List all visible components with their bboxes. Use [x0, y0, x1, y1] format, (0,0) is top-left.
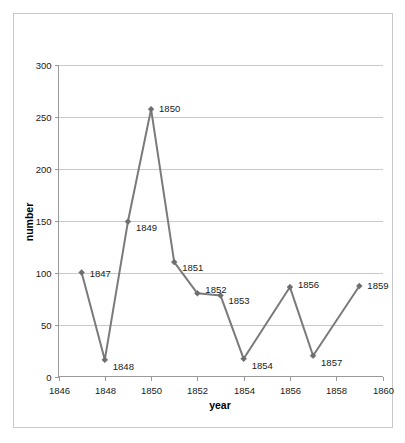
- y-axis-title: number: [23, 203, 35, 242]
- data-point-label: 1854: [252, 360, 273, 371]
- y-tick-label: 150: [36, 216, 52, 227]
- y-tick-label: 250: [36, 112, 52, 123]
- data-point-markers: [79, 106, 363, 362]
- series-polyline: [82, 109, 360, 360]
- x-tick-label: 1848: [95, 385, 116, 396]
- x-tick-label: 1852: [187, 385, 208, 396]
- x-tick-label: 1850: [141, 385, 162, 396]
- y-axis-tick-labels: 050100150200250300: [36, 60, 52, 383]
- data-point-label: 1849: [136, 222, 157, 233]
- x-axis-title: year: [209, 399, 231, 411]
- data-point-label: 1853: [229, 295, 250, 306]
- data-point-marker: [125, 219, 131, 225]
- tick-marks: [55, 66, 384, 381]
- data-point-label: 1857: [321, 357, 342, 368]
- data-point-label: 1859: [367, 280, 388, 291]
- data-series-line: [82, 109, 360, 360]
- data-point-label: 1848: [113, 361, 134, 372]
- data-point-label: 1847: [90, 268, 111, 279]
- line-chart: 050100150200250300 184618481850185218541…: [0, 0, 405, 443]
- y-tick-label: 50: [41, 320, 52, 331]
- data-point-label: 1851: [182, 262, 203, 273]
- y-tick-label: 100: [36, 268, 52, 279]
- y-tick-label: 300: [36, 60, 52, 71]
- data-point-marker: [79, 270, 85, 276]
- x-tick-label: 1860: [373, 385, 394, 396]
- x-tick-label: 1854: [234, 385, 255, 396]
- data-point-marker: [102, 357, 108, 363]
- y-tick-label: 200: [36, 164, 52, 175]
- axis-lines: [59, 65, 383, 377]
- x-axis-tick-labels: 18461848185018521854185618581860: [49, 385, 394, 396]
- x-tick-label: 1856: [280, 385, 301, 396]
- data-point-label: 1856: [298, 279, 319, 290]
- data-point-label: 1850: [159, 103, 180, 114]
- data-point-labels: 1847184818491850185118521853185418561857…: [90, 103, 389, 372]
- x-tick-label: 1858: [326, 385, 347, 396]
- data-point-label: 1852: [205, 284, 226, 295]
- x-tick-label: 1846: [49, 385, 70, 396]
- data-point-marker: [148, 106, 154, 112]
- y-tick-label: 0: [46, 372, 51, 383]
